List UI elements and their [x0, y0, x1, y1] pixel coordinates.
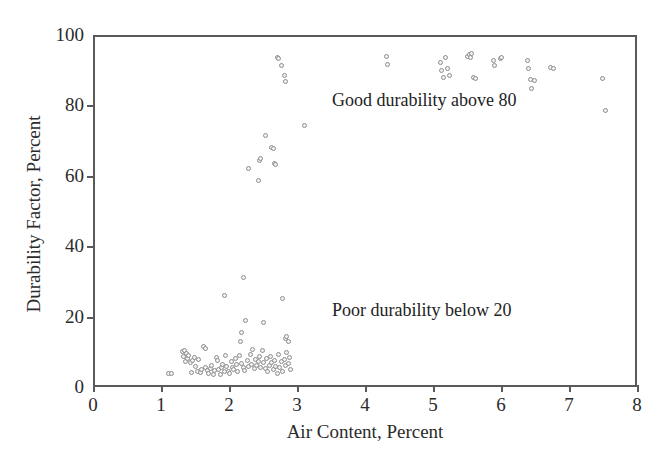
data-point [551, 66, 556, 71]
data-point [256, 178, 261, 183]
data-point [186, 353, 191, 358]
x-tick-mark [229, 385, 231, 392]
data-point [280, 296, 285, 301]
data-point [439, 68, 444, 73]
data-point [302, 123, 307, 128]
data-point [276, 56, 281, 61]
y-tick-mark [87, 105, 94, 107]
data-point [250, 347, 255, 352]
data-point [600, 76, 605, 81]
data-point [189, 370, 194, 375]
data-point [257, 354, 262, 359]
data-point [283, 79, 288, 84]
data-point [473, 76, 478, 81]
data-point [215, 358, 220, 363]
plot-area [93, 35, 637, 387]
data-point [532, 78, 537, 83]
data-point [261, 320, 266, 325]
data-point [272, 358, 277, 363]
data-point [441, 75, 446, 80]
x-axis-title: Air Content, Percent [93, 421, 637, 443]
data-point [447, 73, 452, 78]
data-point [275, 371, 280, 376]
data-point [271, 146, 276, 151]
data-point [525, 58, 530, 63]
data-point [284, 350, 289, 355]
data-point [603, 108, 608, 113]
data-point [260, 348, 265, 353]
data-point [385, 62, 390, 67]
data-point [222, 293, 227, 298]
x-tick-label: 8 [617, 394, 657, 416]
data-point [286, 361, 291, 366]
y-tick-mark [87, 317, 94, 319]
scatter-plot-figure: 012345678 020406080100 Air Content, Perc… [0, 0, 672, 463]
x-tick-label: 7 [549, 394, 589, 416]
data-point [276, 352, 281, 357]
data-point [265, 369, 270, 374]
y-axis-title: Durability Factor, Percent [23, 34, 45, 394]
data-point [235, 369, 240, 374]
data-point [499, 55, 504, 60]
x-tick-mark [365, 385, 367, 392]
data-point [529, 86, 534, 91]
x-tick-mark [433, 385, 435, 392]
x-tick-mark [93, 385, 95, 392]
data-point [526, 66, 531, 71]
data-point [248, 352, 253, 357]
data-point [286, 339, 291, 344]
x-tick-mark [161, 385, 163, 392]
data-point [279, 63, 284, 68]
annotation-good-durability: Good durability above 80 [332, 90, 516, 111]
data-point [196, 357, 201, 362]
x-tick-label: 5 [413, 394, 453, 416]
data-point [443, 55, 448, 60]
data-point [239, 330, 244, 335]
y-tick-mark [87, 176, 94, 178]
data-point [273, 162, 278, 167]
x-tick-label: 2 [209, 394, 249, 416]
data-point [223, 353, 228, 358]
data-point [287, 355, 292, 360]
data-point [445, 66, 450, 71]
data-point [169, 371, 174, 376]
data-point [469, 51, 474, 56]
data-point [384, 54, 389, 59]
x-tick-label: 6 [481, 394, 521, 416]
data-point [256, 359, 261, 364]
data-point [263, 133, 268, 138]
data-point [238, 339, 243, 344]
annotation-poor-durability: Poor durability below 20 [332, 300, 511, 321]
data-point [492, 63, 497, 68]
x-tick-mark [297, 385, 299, 392]
data-point [203, 346, 208, 351]
y-tick-mark [87, 246, 94, 248]
x-tick-label: 1 [141, 394, 181, 416]
data-point [227, 371, 232, 376]
x-tick-label: 4 [345, 394, 385, 416]
x-tick-mark [569, 385, 571, 392]
data-point [438, 60, 443, 65]
data-point [491, 58, 496, 63]
data-point [288, 367, 293, 372]
x-tick-mark [637, 385, 639, 392]
data-point [246, 166, 251, 171]
data-point [237, 353, 242, 358]
x-tick-label: 3 [277, 394, 317, 416]
data-point [258, 156, 263, 161]
data-point [243, 318, 248, 323]
data-point [241, 275, 246, 280]
data-point [280, 369, 285, 374]
data-point [282, 73, 287, 78]
data-point [261, 360, 266, 365]
x-tick-mark [501, 385, 503, 392]
